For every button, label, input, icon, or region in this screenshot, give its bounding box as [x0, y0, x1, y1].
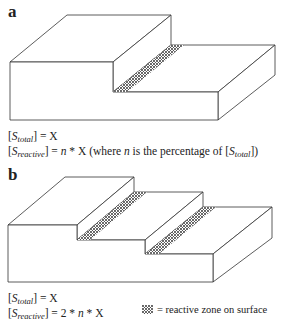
panel-label-b: b: [8, 166, 17, 183]
legend: = reactive zone on surface: [142, 304, 267, 315]
step-block-a: [10, 15, 275, 120]
equation-total-b: [Stotal] = X: [8, 292, 58, 305]
equation-reactive-a: [Sreactive] = n * X (where n is the perc…: [8, 145, 258, 158]
legend-text: = reactive zone on surface: [157, 304, 267, 315]
equation-reactive-b: [Sreactive] = 2 * n * X: [8, 307, 104, 320]
panel-label-a: a: [8, 3, 17, 20]
dotted-pattern-icon: [142, 305, 153, 314]
diagram-canvas: [0, 0, 293, 325]
equation-total-a: [Stotal] = X: [8, 130, 58, 143]
